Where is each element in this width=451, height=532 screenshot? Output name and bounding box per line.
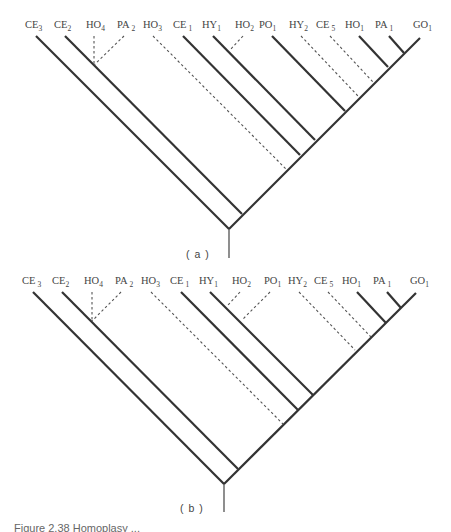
taxon-labels-a: CE3 CE2 HO4 PA2 HO3 CE1 HY1 HO2 PO1 HY2 … [25, 19, 432, 33]
branch-ce3 [36, 36, 229, 229]
branch-pa2 [94, 36, 124, 65]
taxon-label: CE2 [54, 19, 71, 33]
taxon-label: HY1 [202, 19, 221, 33]
taxon-label: CE2 [52, 275, 69, 289]
taxon-label: CE3 [22, 275, 41, 289]
taxon-label: CE5 [316, 19, 335, 33]
branch-hy1 [210, 292, 313, 395]
branch-po1 [242, 292, 270, 320]
taxon-label: GO1 [410, 275, 429, 289]
cladogram-panel-b: CE3 CE2 HO4 PA2 HO3 CE1 HY1 HO2 PO1 HY2 … [22, 275, 429, 514]
spine-branch [224, 293, 416, 484]
cladogram-figure: CE3 CE2 HO4 PA2 HO3 CE1 HY1 HO2 PO1 HY2 … [0, 0, 451, 532]
branch-ho1 [357, 292, 386, 323]
branch-po1 [272, 36, 345, 111]
taxon-label: HY2 [289, 19, 308, 33]
branch-ce2 [65, 36, 242, 214]
figure-caption: Figure 2.38 Homoplasy ... [14, 522, 140, 532]
cladogram-panel-a: CE3 CE2 HO4 PA2 HO3 CE1 HY1 HO2 PO1 HY2 … [25, 19, 432, 260]
taxon-label: HO1 [342, 275, 361, 289]
taxon-label: CE1 [173, 19, 192, 33]
branch-ce2 [62, 292, 238, 469]
taxon-label: PA2 [115, 275, 133, 289]
branch-ho3 [153, 36, 286, 169]
taxon-label: HO2 [235, 19, 254, 33]
taxon-label: PA1 [373, 275, 391, 289]
taxon-label: HO4 [86, 19, 105, 33]
branch-ce3 [33, 292, 224, 484]
branch-ho1 [359, 36, 388, 67]
taxon-label: PO1 [264, 275, 281, 289]
taxon-label: HO1 [345, 19, 364, 33]
taxon-label: PO1 [259, 19, 276, 33]
branch-ce1 [181, 292, 298, 410]
taxon-label: HY2 [288, 275, 307, 289]
taxon-label: PA2 [117, 19, 135, 33]
taxon-label: HY1 [199, 275, 218, 289]
taxon-label: GO1 [413, 19, 432, 33]
spine-branch [229, 38, 420, 229]
taxon-label: CE5 [314, 275, 333, 289]
branch-ce1 [183, 36, 300, 155]
panel-label-a: ( a ) [186, 248, 210, 260]
taxon-label: HO3 [143, 19, 162, 33]
taxon-label: HO4 [84, 275, 103, 289]
taxon-label: CE1 [170, 275, 189, 289]
panel-label-b: ( b ) [180, 502, 204, 514]
branch-pa1 [387, 292, 401, 308]
taxon-labels-b: CE3 CE2 HO4 PA2 HO3 CE1 HY1 HO2 PO1 HY2 … [22, 275, 429, 289]
branch-pa1 [389, 36, 404, 53]
branch-ho2 [230, 36, 243, 50]
branch-pa2 [92, 292, 121, 321]
taxon-label: PA1 [375, 19, 393, 33]
taxon-label: HO3 [141, 275, 160, 289]
branch-hy2 [299, 292, 355, 350]
taxon-label: HO2 [232, 275, 251, 289]
branch-hy1 [213, 36, 315, 140]
taxon-label: CE3 [25, 19, 42, 33]
branch-ho3 [151, 292, 283, 424]
branch-ho2 [228, 292, 240, 305]
branch-hy2 [301, 36, 358, 96]
